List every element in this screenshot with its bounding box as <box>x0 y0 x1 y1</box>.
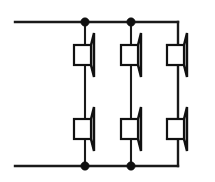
junction-bottom-mid-dot <box>127 162 135 170</box>
speaker-body-icon <box>167 119 184 139</box>
wiring-schematic-canvas <box>0 0 215 182</box>
speaker-wiring-diagram <box>0 0 215 182</box>
junction-top-mid-dot <box>127 18 135 26</box>
speaker-body-icon <box>167 45 184 65</box>
junction-bottom-left-dot <box>81 162 89 170</box>
speaker-body-icon <box>74 45 91 65</box>
junction-top-left-dot <box>81 18 89 26</box>
speaker-body-icon <box>121 119 138 139</box>
speaker-body-icon <box>121 45 138 65</box>
speaker-body-icon <box>74 119 91 139</box>
